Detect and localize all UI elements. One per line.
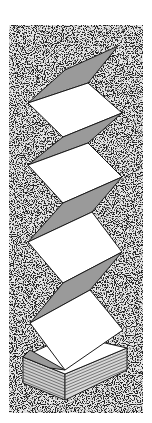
folded-paper-illustration: [0, 0, 152, 423]
